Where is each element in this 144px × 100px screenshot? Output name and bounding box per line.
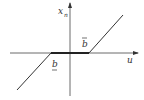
vertical-axis-subscript: n [64,11,68,18]
dead-zone-diagram: x n u b b [0,0,144,100]
upper-slope-line [89,15,123,53]
lower-slope-line [17,53,51,90]
vertical-axis-label: x [58,6,63,16]
horizontal-axis-label: u [127,55,133,65]
upper-threshold-label: b [82,39,88,49]
lower-threshold-label: b [52,59,58,69]
